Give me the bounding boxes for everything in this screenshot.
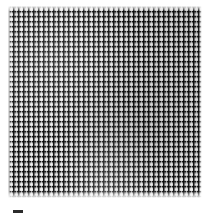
mesh-texture-image — [8, 6, 202, 198]
scale-bar — [13, 210, 23, 213]
mesh-fade-right — [199, 6, 202, 198]
figure-root — [0, 0, 209, 218]
mesh-fade-bottom — [8, 191, 202, 198]
mesh-fade-left — [8, 6, 11, 198]
mesh-fade-top — [8, 6, 202, 11]
mesh-grain-overlay — [8, 6, 202, 198]
